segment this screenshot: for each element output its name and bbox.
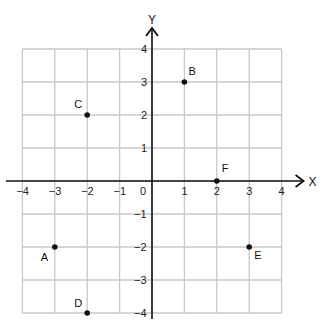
point-label: F [222,162,229,174]
x-tick-label: 0 [140,185,146,197]
y-tick-label: −1 [134,208,147,220]
point-label: E [254,249,261,261]
point-label: D [74,297,82,309]
y-tick-label: −2 [134,241,147,253]
x-tick-label: 4 [279,185,285,197]
point-marker-icon [214,178,220,184]
x-tick-label: −1 [114,185,127,197]
y-axis-label: Y [148,13,156,27]
x-tick-labels: −4−3−2−101234 [16,185,284,197]
point-marker-icon [84,112,90,118]
plotted-points: ABCDEF [41,65,262,316]
y-tick-label: −3 [134,274,147,286]
axes [6,28,304,319]
y-tick-label: 2 [141,109,147,121]
x-tick-label: −4 [16,185,29,197]
x-tick-label: 3 [246,185,252,197]
point-label: B [188,65,195,77]
y-tick-label: 3 [141,76,147,88]
x-tick-label: −2 [81,185,94,197]
point-label: C [74,98,82,110]
point-marker-icon [182,79,188,85]
x-tick-label: −3 [49,185,62,197]
point-marker-icon [246,244,252,250]
y-tick-label: 4 [141,43,147,55]
x-axis-label: X [309,175,317,189]
y-tick-label: −4 [134,307,147,319]
coordinate-plane: −4−3−2−101234 −4−3−2−11234 X Y ABCDEF [0,0,334,327]
point-marker-icon [84,310,90,316]
x-tick-label: 1 [181,185,187,197]
y-tick-label: 1 [141,142,147,154]
point-label: A [41,251,49,263]
point-marker-icon [52,244,58,250]
x-tick-label: 2 [214,185,220,197]
